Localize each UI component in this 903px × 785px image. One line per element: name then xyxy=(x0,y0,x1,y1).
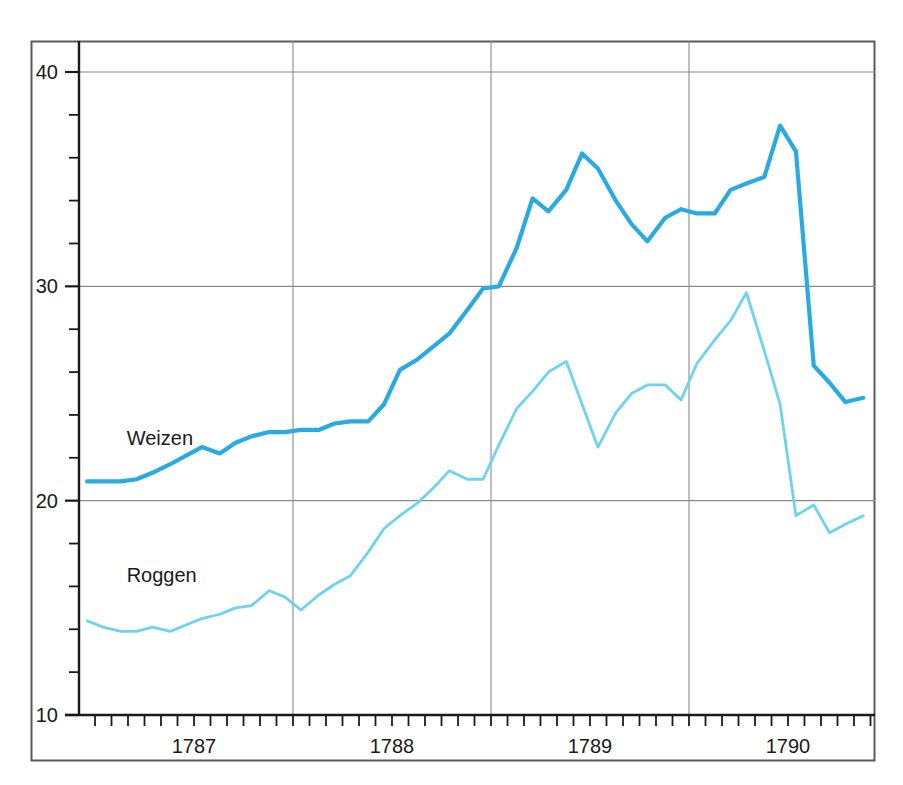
chart-background xyxy=(0,0,903,785)
x-axis-tick-label: 1787 xyxy=(172,735,217,757)
y-axis-tick-label: 30 xyxy=(36,275,58,297)
series-label-roggen: Roggen xyxy=(127,564,197,586)
x-axis-tick-label: 1789 xyxy=(568,735,613,757)
x-axis-tick-label: 1788 xyxy=(370,735,415,757)
y-axis-tick-label: 20 xyxy=(36,490,58,512)
price-index-line-chart: 102030401787178817891790 WeizenRoggen xyxy=(0,0,903,785)
y-axis-tick-label: 40 xyxy=(36,61,58,83)
x-axis-tick-label: 1790 xyxy=(766,735,811,757)
y-axis-tick-label: 10 xyxy=(36,704,58,726)
series-label-weizen: Weizen xyxy=(127,427,193,449)
chart-figure: 102030401787178817891790 WeizenRoggen xyxy=(0,0,903,785)
